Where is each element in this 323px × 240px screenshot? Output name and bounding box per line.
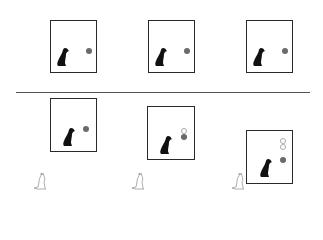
- dog-icon: [252, 47, 266, 67]
- filled-dot-icon: [83, 126, 89, 132]
- empty-circle-icon: [280, 144, 286, 150]
- cat-icon: [231, 172, 245, 190]
- divider-line: [16, 92, 310, 93]
- filled-dot-icon: [280, 157, 286, 163]
- dog-icon: [259, 158, 273, 178]
- dog-icon: [154, 47, 168, 67]
- filled-dot-icon: [86, 48, 92, 54]
- cat-icon: [131, 172, 145, 190]
- dog-icon: [159, 135, 173, 155]
- dog-icon: [62, 127, 76, 147]
- filled-dot-icon: [181, 134, 187, 140]
- filled-dot-icon: [184, 48, 190, 54]
- filled-dot-icon: [282, 48, 288, 54]
- dog-icon: [56, 47, 70, 67]
- empty-circle-icon: [181, 128, 187, 134]
- cat-icon: [33, 172, 47, 190]
